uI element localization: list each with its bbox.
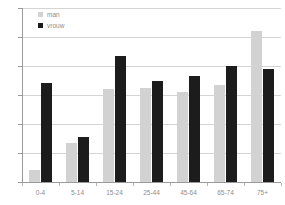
x-tick-mark (96, 183, 97, 186)
x-tick-label: 15-24 (106, 189, 123, 197)
y-tick-mark (18, 37, 22, 38)
x-tick-label: 5-14 (71, 189, 84, 197)
bar-vrouw-5-14 (78, 137, 89, 182)
bar-man-25-44 (140, 88, 151, 182)
square-swatch-icon (38, 12, 43, 17)
x-tick-mark (207, 183, 208, 186)
bar-vrouw-65-74 (226, 66, 237, 182)
x-tick-mark (170, 183, 171, 186)
x-tick-label: 75+ (257, 189, 268, 197)
bar-vrouw-75+ (263, 69, 274, 182)
x-tick-label: 0-4 (36, 189, 45, 197)
x-axis-line (22, 182, 281, 183)
x-tick-label: 65-74 (217, 189, 234, 197)
x-tick-mark (244, 183, 245, 186)
chart-legend: manvrouw (38, 10, 64, 32)
x-tick-mark (22, 183, 23, 186)
x-tick-mark (281, 183, 282, 186)
bar-man-0-4 (29, 170, 40, 182)
bar-man-65-74 (214, 85, 225, 182)
bar-man-75+ (251, 31, 262, 182)
plot-area (22, 8, 281, 182)
legend-item-label: vrouw (47, 22, 64, 29)
y-tick-mark (18, 95, 22, 96)
y-tick-mark (18, 66, 22, 67)
y-axis-line (22, 8, 23, 183)
y-tick-mark (18, 153, 22, 154)
bar-chart: 0123456 0-45-1415-2425-4445-6465-7475+ m… (0, 0, 285, 205)
bar-man-45-64 (177, 92, 188, 182)
bar-vrouw-0-4 (41, 83, 52, 182)
legend-item-vrouw: vrouw (38, 21, 64, 30)
y-tick-mark (18, 124, 22, 125)
x-tick-label: 45-64 (180, 189, 197, 197)
bar-vrouw-45-64 (189, 76, 200, 182)
legend-item-man: man (38, 10, 64, 19)
bar-man-15-24 (103, 89, 114, 182)
bar-vrouw-25-44 (152, 81, 163, 183)
square-swatch-icon (38, 23, 43, 28)
x-tick-label: 25-44 (143, 189, 160, 197)
y-tick-mark (18, 8, 22, 9)
gridline (22, 8, 281, 9)
bar-vrouw-15-24 (115, 56, 126, 182)
x-tick-mark (59, 183, 60, 186)
x-tick-mark (133, 183, 134, 186)
gridline (22, 37, 281, 38)
gridline (22, 66, 281, 67)
legend-item-label: man (47, 11, 60, 18)
bar-man-5-14 (66, 143, 77, 182)
